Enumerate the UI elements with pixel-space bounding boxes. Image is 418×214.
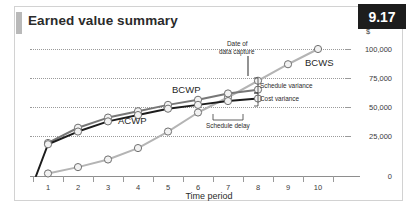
x-axis-title: Time period bbox=[0, 191, 418, 201]
earned-value-summary-figure: Earned value summary 9.17 $ 100,000 75,0… bbox=[0, 0, 418, 214]
figure-frame bbox=[14, 6, 403, 201]
y-tick-25000 bbox=[345, 136, 351, 137]
gridline-75000 bbox=[30, 78, 348, 79]
annotation-schedule-delay: Schedule delay bbox=[206, 122, 250, 130]
x-axis-line bbox=[30, 176, 360, 177]
y-tick-label-100000: 100,000 bbox=[352, 45, 392, 54]
y-tick-label-50000: 50,000 bbox=[352, 103, 392, 112]
y-tick-label-75000: 75,000 bbox=[352, 74, 392, 83]
annotation-cost-variance: Cost variance bbox=[260, 95, 299, 103]
x-tick-end bbox=[333, 176, 334, 182]
series-label-bcwp: BCWP bbox=[172, 84, 201, 95]
figure-number-badge: 9.17 bbox=[358, 4, 406, 29]
gridline-50000 bbox=[30, 107, 348, 108]
y-tick-100000 bbox=[345, 49, 351, 50]
annotation-date-of-capture-line1: Date of bbox=[227, 40, 248, 48]
x-tick-4 bbox=[123, 176, 124, 182]
annotation-date-of-capture-line2: data capture bbox=[219, 48, 255, 56]
page-title: Earned value summary bbox=[28, 13, 178, 28]
x-tick-7 bbox=[213, 176, 214, 182]
gridline-100000 bbox=[30, 49, 348, 50]
gridline-25000 bbox=[30, 136, 348, 137]
x-tick-3 bbox=[93, 176, 94, 182]
title-accent-bar bbox=[16, 12, 22, 34]
x-tick-10 bbox=[303, 176, 304, 182]
y-tick-75000 bbox=[345, 78, 351, 79]
x-tick-6 bbox=[183, 176, 184, 182]
x-tick-8 bbox=[243, 176, 244, 182]
series-label-acwp: ACWP bbox=[118, 115, 147, 126]
x-tick-9 bbox=[273, 176, 274, 182]
x-tick-2 bbox=[63, 176, 64, 182]
annotation-schedule-variance: Schedule variance bbox=[260, 82, 313, 90]
y-tick-50000 bbox=[345, 107, 351, 108]
x-tick-1 bbox=[33, 176, 34, 182]
y-tick-label-25000: 25,000 bbox=[352, 132, 392, 141]
y-axis-unit-label: $ bbox=[366, 27, 370, 36]
series-label-bcws: BCWS bbox=[305, 57, 334, 68]
x-tick-5 bbox=[153, 176, 154, 182]
